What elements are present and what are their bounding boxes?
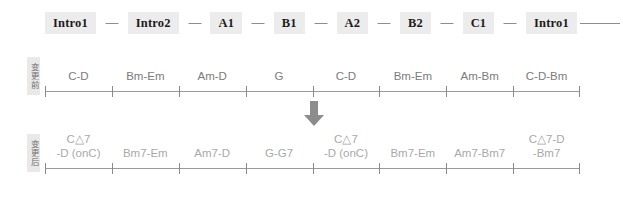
axis-tick bbox=[513, 163, 514, 174]
axis-tick bbox=[446, 163, 447, 174]
chord-cell[interactable]: C-D bbox=[313, 69, 380, 86]
chord-cells-before: C-DBm-EmAm-DGC-DBm-EmAm-BmC-D-Bm bbox=[45, 54, 580, 86]
chord-cell[interactable]: G-G7 bbox=[246, 146, 313, 163]
section-chip[interactable]: Intro1 bbox=[45, 12, 96, 34]
chord-label-line1: G-G7 bbox=[265, 147, 293, 159]
side-label-after: 变更后 bbox=[27, 134, 40, 172]
chord-cell[interactable]: Bm-Em bbox=[379, 69, 446, 86]
axis-tick bbox=[112, 86, 113, 97]
chord-cell[interactable]: C-D bbox=[45, 69, 112, 86]
section-separator-dash bbox=[577, 12, 623, 34]
section-separator-dash bbox=[305, 12, 337, 34]
chord-cell[interactable]: Am-D bbox=[179, 69, 246, 86]
axis-tick bbox=[246, 163, 247, 174]
section-chip[interactable]: Intro1 bbox=[526, 12, 577, 34]
chord-label-line1: Am-Bm bbox=[461, 70, 499, 82]
chord-label-line1: C△7 bbox=[67, 133, 91, 145]
transition-arrow-down-icon bbox=[303, 101, 325, 127]
chord-label-line1: Bm7-Em bbox=[123, 147, 168, 159]
chord-label-line1: Bm-Em bbox=[126, 70, 164, 82]
axis-tick bbox=[179, 163, 180, 174]
section-chip[interactable]: A2 bbox=[337, 12, 369, 34]
section-chip[interactable]: Intro2 bbox=[128, 12, 179, 34]
axis-tick bbox=[579, 86, 580, 97]
chord-cell[interactable]: Bm7-Em bbox=[112, 146, 179, 163]
chord-cells-after: C△7-D (onC)Bm7-EmAm7-DG-G7C△7-D (onC)Bm7… bbox=[45, 131, 580, 163]
chord-label-line1: G bbox=[275, 70, 284, 82]
section-chip[interactable]: B2 bbox=[400, 12, 431, 34]
section-separator-dash bbox=[242, 12, 274, 34]
chord-cell[interactable]: C△7-D (onC) bbox=[45, 132, 112, 163]
chord-label-line1: C-D-Bm bbox=[526, 70, 568, 82]
chord-cell[interactable]: G bbox=[246, 69, 313, 86]
chord-label-line1: Am7-Bm7 bbox=[454, 147, 505, 159]
chord-cell[interactable]: C△7-D-Bm7 bbox=[513, 132, 580, 163]
axis-after bbox=[45, 163, 580, 174]
chord-cell[interactable]: Am7-Bm7 bbox=[446, 146, 513, 163]
axis-tick bbox=[45, 163, 46, 174]
chord-cell[interactable]: Bm7-Em bbox=[379, 146, 446, 163]
section-separator-dash bbox=[179, 12, 211, 34]
section-chip[interactable]: A1 bbox=[210, 12, 242, 34]
axis-tick bbox=[579, 163, 580, 174]
song-structure-row: Intro1Intro2A1B1A2B2C1Intro1 bbox=[45, 12, 623, 34]
chord-cell[interactable]: Bm-Em bbox=[112, 69, 179, 86]
axis-tick bbox=[45, 86, 46, 97]
chord-label-line1: Bm-Em bbox=[394, 70, 432, 82]
axis-tick bbox=[446, 86, 447, 97]
chord-cell[interactable]: Am-Bm bbox=[446, 69, 513, 86]
chord-label-line1: C△7-D bbox=[529, 133, 565, 145]
timeline-before: C-DBm-EmAm-DGC-DBm-EmAm-BmC-D-Bm bbox=[45, 54, 580, 97]
chord-label-line1: Bm7-Em bbox=[390, 147, 435, 159]
axis-tick bbox=[379, 163, 380, 174]
chord-label-line2: -D (onC) bbox=[313, 146, 380, 160]
section-chip[interactable]: B1 bbox=[274, 12, 305, 34]
chord-label-line1: Am7-D bbox=[194, 147, 230, 159]
axis-tick bbox=[112, 163, 113, 174]
axis-tick bbox=[379, 86, 380, 97]
chord-label-line1: C-D bbox=[68, 70, 88, 82]
section-separator-dash bbox=[431, 12, 463, 34]
section-separator-dash bbox=[96, 12, 128, 34]
chord-cell[interactable]: C-D-Bm bbox=[513, 69, 580, 86]
section-separator-dash bbox=[368, 12, 400, 34]
axis-tick bbox=[513, 86, 514, 97]
section-chip[interactable]: C1 bbox=[463, 12, 495, 34]
axis-tick bbox=[246, 86, 247, 97]
axis-tick bbox=[313, 163, 314, 174]
chord-label-line1: C△7 bbox=[334, 133, 358, 145]
timeline-after: C△7-D (onC)Bm7-EmAm7-DG-G7C△7-D (onC)Bm7… bbox=[45, 131, 580, 174]
chord-label-line2: -D (onC) bbox=[45, 146, 112, 160]
axis-tick bbox=[313, 86, 314, 97]
chord-change-diagram: Intro1Intro2A1B1A2B2C1Intro1 变更前 C-DBm-E… bbox=[0, 0, 623, 199]
chord-cell[interactable]: C△7-D (onC) bbox=[313, 132, 380, 163]
chord-label-line1: Am-D bbox=[197, 70, 226, 82]
chord-cell[interactable]: Am7-D bbox=[179, 146, 246, 163]
section-separator-dash bbox=[494, 12, 526, 34]
axis-tick bbox=[179, 86, 180, 97]
chord-label-line2: -Bm7 bbox=[513, 146, 580, 160]
axis-before bbox=[45, 86, 580, 97]
side-label-before: 变更前 bbox=[27, 57, 40, 95]
chord-label-line1: C-D bbox=[336, 70, 356, 82]
